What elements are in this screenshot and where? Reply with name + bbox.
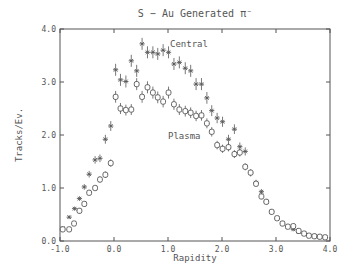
data-point-plasma — [275, 216, 280, 221]
data-point-central — [134, 65, 139, 77]
data-point-central — [145, 46, 150, 58]
data-point-plasma — [291, 224, 296, 229]
data-point-central — [155, 48, 160, 60]
data-point-plasma — [123, 105, 128, 116]
data-point-plasma — [323, 235, 328, 240]
data-point-central — [108, 121, 113, 131]
x-tick-label: 2.0 — [215, 245, 230, 254]
data-point-central — [161, 44, 166, 56]
data-point-plasma — [145, 81, 150, 93]
data-point-plasma — [103, 172, 108, 179]
annotation-plasma: Plasma — [168, 131, 201, 141]
x-axis-label: Rapidity — [173, 253, 217, 263]
data-point-plasma — [166, 87, 171, 99]
data-point-plasma — [118, 103, 123, 114]
data-point-plasma — [87, 190, 92, 195]
data-point-plasma — [60, 227, 65, 232]
data-point-plasma — [204, 118, 209, 128]
data-point-plasma — [161, 96, 166, 107]
data-point-plasma — [183, 106, 188, 117]
data-point-plasma — [254, 181, 259, 187]
data-point-plasma — [129, 104, 134, 115]
data-point-central — [243, 147, 248, 155]
data-point-plasma — [172, 99, 177, 110]
data-point-plasma — [199, 110, 204, 121]
y-tick-label: 3.0 — [42, 78, 57, 87]
data-point-plasma — [134, 78, 139, 90]
y-tick-label: 1.0 — [42, 184, 57, 193]
data-point-plasma — [155, 91, 160, 103]
data-point-plasma — [188, 107, 193, 118]
data-point-plasma — [77, 208, 82, 213]
data-point-plasma — [215, 141, 220, 150]
data-point-central — [183, 62, 188, 74]
data-point-plasma — [177, 104, 182, 115]
x-tick-label: -1.0 — [50, 245, 69, 254]
data-point-central — [139, 38, 144, 50]
annotation-central: Central — [170, 39, 208, 49]
y-tick-label: 2.0 — [42, 131, 57, 140]
data-point-central — [118, 74, 123, 86]
data-point-plasma — [72, 221, 77, 226]
data-point-plasma — [108, 159, 113, 166]
data-point-central — [188, 65, 193, 77]
data-point-plasma — [269, 209, 274, 214]
data-point-central — [77, 196, 82, 201]
data-point-plasma — [302, 231, 307, 236]
chart-title: S − Au Generated π⁻ — [138, 8, 252, 19]
data-point-plasma — [67, 227, 72, 232]
x-tick-label: 3.0 — [269, 245, 284, 254]
data-point-central — [220, 117, 225, 127]
data-point-central — [67, 215, 72, 219]
data-point-central — [193, 78, 198, 90]
data-point-plasma — [312, 234, 317, 239]
data-point-plasma — [259, 194, 264, 199]
data-point-plasma — [209, 127, 214, 136]
data-point-central — [204, 92, 209, 104]
data-point-plasma — [194, 111, 199, 121]
data-point-plasma — [296, 228, 301, 233]
x-tick-label: 0.0 — [107, 245, 122, 254]
data-point-plasma — [140, 91, 145, 103]
data-point-central — [171, 58, 176, 70]
data-point-plasma — [226, 143, 231, 151]
data-point-central — [129, 55, 134, 67]
y-tick-label: 4.0 — [42, 25, 57, 34]
x-axis: -1.00.01.02.03.04.0 — [50, 29, 337, 254]
data-point-central — [93, 156, 98, 164]
x-tick-label: 4.0 — [323, 245, 338, 254]
data-point-central — [199, 78, 204, 90]
data-point-central — [97, 155, 102, 163]
data-point-central — [113, 64, 118, 76]
data-point-plasma — [113, 91, 118, 103]
data-point-central — [103, 135, 108, 144]
y-axis-label: Tracks/Ev. — [14, 108, 24, 162]
data-point-central — [232, 124, 237, 134]
data-point-plasma — [264, 199, 269, 204]
rapidity-chart: S − Au Generated π⁻ 0.01.02.03.04.0 -1.0… — [0, 0, 355, 274]
data-point-plasma — [307, 233, 312, 238]
data-point-plasma — [82, 201, 87, 206]
data-point-central — [82, 184, 87, 190]
data-point-plasma — [237, 148, 242, 156]
data-point-plasma — [98, 176, 103, 182]
data-point-central — [87, 171, 92, 178]
data-point-plasma — [243, 163, 248, 170]
data-point-plasma — [93, 185, 98, 191]
data-point-central — [123, 75, 128, 87]
data-point-plasma — [232, 150, 237, 158]
data-point-plasma — [220, 145, 225, 153]
data-point-plasma — [285, 224, 290, 229]
data-point-plasma — [317, 234, 322, 239]
data-point-plasma — [150, 87, 155, 99]
data-point-central — [150, 46, 155, 58]
data-point-plasma — [280, 221, 285, 226]
data-point-central — [215, 113, 220, 123]
data-point-central — [209, 105, 214, 116]
data-point-central — [72, 207, 77, 211]
data-point-central — [226, 135, 231, 144]
data-point-plasma — [248, 169, 253, 176]
data-point-central — [177, 56, 182, 68]
